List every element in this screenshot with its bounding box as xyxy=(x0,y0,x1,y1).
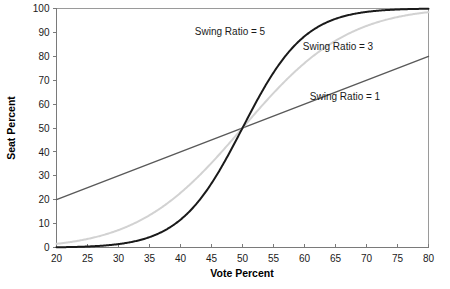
x-tick-label: 45 xyxy=(206,253,218,264)
x-tick-label: 55 xyxy=(268,253,280,264)
y-tick-label: 70 xyxy=(38,75,50,86)
y-tick-label: 0 xyxy=(44,242,50,253)
x-tick-label: 75 xyxy=(392,253,404,264)
x-tick-label: 40 xyxy=(175,253,187,264)
y-tick-label: 80 xyxy=(38,51,50,62)
y-tick-label: 50 xyxy=(38,123,50,134)
y-tick-label: 30 xyxy=(38,170,50,181)
y-tick-label: 40 xyxy=(38,147,50,158)
x-tick-label: 80 xyxy=(423,253,435,264)
y-tick-label: 90 xyxy=(38,27,50,38)
y-tick-label: 20 xyxy=(38,194,50,205)
annotation-1: Swing Ratio = 5 xyxy=(195,26,266,37)
y-tick-label: 60 xyxy=(38,99,50,110)
x-tick-label: 30 xyxy=(113,253,125,264)
x-tick-label: 50 xyxy=(237,253,249,264)
annotation-2: Swing Ratio = 3 xyxy=(303,41,374,52)
annotation-3: Swing Ratio = 1 xyxy=(310,91,381,102)
x-tick-label: 60 xyxy=(299,253,311,264)
x-axis-title: Vote Percent xyxy=(210,267,274,279)
series-annotations: Swing Ratio = 5Swing Ratio = 3Swing Rati… xyxy=(195,26,381,102)
x-tick-label: 25 xyxy=(82,253,94,264)
y-tick-label: 100 xyxy=(33,3,50,14)
seats-votes-chart: 0102030405060708090100 20253035404550556… xyxy=(0,0,450,289)
y-tick-label: 10 xyxy=(38,218,50,229)
chart-figure: 0102030405060708090100 20253035404550556… xyxy=(0,0,450,289)
x-tick-label: 65 xyxy=(330,253,342,264)
x-tick-label: 35 xyxy=(144,253,156,264)
x-tick-label: 70 xyxy=(361,253,373,264)
x-axis-tick-labels: 20253035404550556065707580 xyxy=(51,253,435,264)
x-tick-label: 20 xyxy=(51,253,63,264)
y-axis-title: Seat Percent xyxy=(5,96,17,160)
y-axis-tick-labels: 0102030405060708090100 xyxy=(33,3,50,253)
